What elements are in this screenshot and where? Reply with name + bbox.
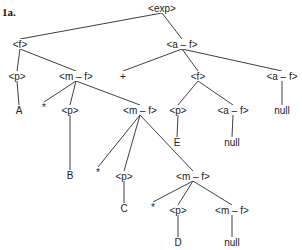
tree-edge xyxy=(182,49,282,71)
tree-node-A: A xyxy=(16,105,23,116)
tree-edge xyxy=(17,81,19,105)
tree-node-null2: null xyxy=(224,137,240,148)
tree-node-af3: <a – f> xyxy=(217,105,248,116)
tree-edge xyxy=(177,115,178,137)
tree-edge xyxy=(123,49,182,71)
tree-node-root: <exp> xyxy=(148,3,176,14)
tree-edge xyxy=(153,181,193,202)
tree-node-mf2: <m – f> xyxy=(123,105,157,116)
figure-label: 1a. xyxy=(2,6,16,18)
tree-edge xyxy=(76,81,140,105)
tree-node-C: C xyxy=(120,203,127,214)
tree-node-p3: <p> xyxy=(169,105,186,116)
tree-edge xyxy=(198,81,233,105)
tree-edge xyxy=(162,13,182,39)
tree-node-E: E xyxy=(174,137,181,148)
tree-node-star3: * xyxy=(151,202,155,213)
tree-node-null3: null xyxy=(224,237,240,248)
tree-node-B: B xyxy=(67,170,74,181)
tree-node-p4: <p> xyxy=(115,171,132,182)
tree-edge xyxy=(140,115,193,171)
tree-edge xyxy=(20,13,162,39)
tree-node-mf3: <m – f> xyxy=(176,171,210,182)
tree-node-f2: <f> xyxy=(191,71,206,82)
tree-edge xyxy=(20,49,76,71)
tree-node-af2: <a – f> xyxy=(266,71,297,82)
tree-node-plus: + xyxy=(120,71,126,82)
tree-node-p1: <p> xyxy=(8,71,25,82)
tree-node-p5: <p> xyxy=(169,205,186,216)
tree-node-null1: null xyxy=(274,105,290,116)
tree-node-star2: * xyxy=(96,167,100,178)
parse-tree-diagram: 1a. <exp><f><a – f><p><m – f>+<f><a – f>… xyxy=(0,0,302,250)
tree-node-star1: * xyxy=(42,102,46,113)
tree-edge xyxy=(124,115,140,171)
tree-node-p2: <p> xyxy=(61,105,78,116)
tree-edge xyxy=(98,115,140,167)
tree-edge xyxy=(178,81,198,105)
tree-node-mf4: <m – f> xyxy=(215,205,249,216)
tree-edge xyxy=(193,181,232,205)
tree-node-f1: <f> xyxy=(13,39,28,50)
tree-node-af1: <a – f> xyxy=(166,39,197,50)
tree-edge xyxy=(232,115,233,137)
tree-node-D: D xyxy=(174,237,181,248)
tree-node-mf1: <m – f> xyxy=(59,71,93,82)
tree-nodes: <exp><f><a – f><p><m – f>+<f><a – f>A*<p… xyxy=(8,3,301,248)
tree-edge xyxy=(17,49,20,71)
